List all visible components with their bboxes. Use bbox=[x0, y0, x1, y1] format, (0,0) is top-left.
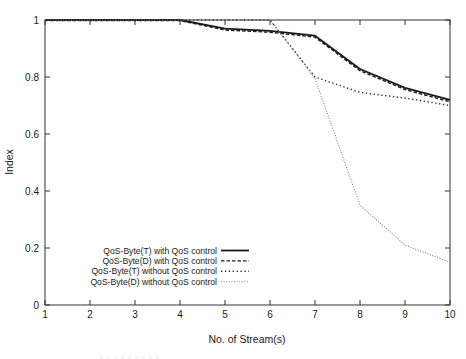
legend-label: QoS-Byte(T) with QoS control bbox=[103, 246, 217, 256]
y-tick-label: 0.2 bbox=[25, 243, 39, 254]
x-tick-label: 6 bbox=[267, 309, 273, 320]
y-axis-label: Index bbox=[3, 148, 15, 174]
legend-label: QoS-Byte(D) without QoS control bbox=[90, 277, 217, 287]
x-tick-label: 7 bbox=[312, 309, 318, 320]
qos-line-chart: 1234567891000.20.40.60.81 No. of Stream(… bbox=[0, 0, 466, 359]
y-tick-label: 0.8 bbox=[25, 72, 39, 83]
x-tick-label: 10 bbox=[444, 309, 456, 320]
y-tick-label: 1 bbox=[33, 15, 39, 26]
x-axis-label: No. of Stream(s) bbox=[208, 333, 285, 345]
x-tick-label: 9 bbox=[402, 309, 408, 320]
x-tick-label: 8 bbox=[357, 309, 363, 320]
legend-label: QoS-Byte(D) with QoS control bbox=[102, 256, 217, 266]
x-tick-label: 1 bbox=[42, 309, 48, 320]
figure-container: 1234567891000.20.40.60.81 No. of Stream(… bbox=[0, 0, 466, 359]
y-tick-label: 0.6 bbox=[25, 129, 39, 140]
x-tick-label: 2 bbox=[87, 309, 93, 320]
y-tick-label: 0 bbox=[33, 300, 39, 311]
legend-label: QoS-Byte(T) without QoS control bbox=[91, 266, 217, 276]
x-tick-label: 3 bbox=[132, 309, 138, 320]
x-tick-label: 4 bbox=[177, 309, 183, 320]
x-tick-label: 5 bbox=[222, 309, 228, 320]
y-tick-label: 0.4 bbox=[25, 186, 39, 197]
